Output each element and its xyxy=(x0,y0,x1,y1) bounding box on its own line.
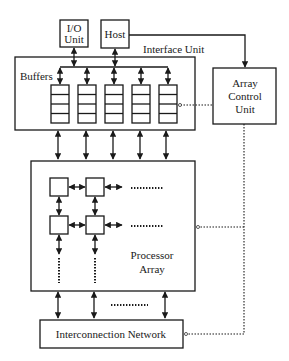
acu-label-2: Control xyxy=(228,90,262,102)
processing-element xyxy=(86,178,104,196)
buffer-column xyxy=(159,85,177,123)
processor-array-label-2: Array xyxy=(139,263,165,275)
processing-element xyxy=(86,216,104,234)
processor-array-label-1: Processor xyxy=(131,249,174,261)
buffers-label: Buffers xyxy=(20,70,53,82)
processing-element xyxy=(50,178,68,196)
io-unit-label-2: Unit xyxy=(64,33,84,45)
host-label: Host xyxy=(105,28,126,40)
buffer-column xyxy=(105,85,123,123)
acu-label-3: Unit xyxy=(235,103,255,115)
interconnection-network-label: Interconnection Network xyxy=(56,328,167,340)
diagram-canvas: I/O Unit Host Interface Unit Buffers Arr… xyxy=(0,0,289,361)
processing-element xyxy=(50,216,68,234)
buffer-column xyxy=(51,85,69,123)
buffer-column xyxy=(78,85,96,123)
processor-array-box xyxy=(31,161,195,291)
interface-unit-label: Interface Unit xyxy=(143,43,204,55)
acu-label-1: Array xyxy=(232,77,258,89)
buffer-column xyxy=(132,85,150,123)
